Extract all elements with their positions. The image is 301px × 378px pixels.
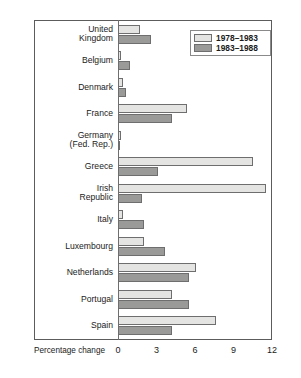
bar-group	[118, 180, 272, 207]
legend-swatch-icon-series-2	[194, 44, 212, 52]
bar-group	[118, 127, 272, 154]
bar-group	[118, 233, 272, 260]
bar-group	[118, 286, 272, 313]
axis-title: Percentage change	[34, 346, 105, 356]
bar-series-2	[118, 273, 189, 282]
category-label: Spain	[33, 321, 113, 330]
bar-series-2	[118, 300, 189, 309]
bar-series-1	[118, 157, 253, 166]
bar-series-1	[118, 78, 123, 87]
bar-series-1	[118, 25, 140, 34]
category-label: Italy	[33, 215, 113, 224]
bar-series-2	[118, 88, 126, 97]
category-label: Portugal	[33, 295, 113, 304]
category-label: United Kingdom	[33, 25, 113, 44]
legend-item-series-1: 1978–1983	[194, 33, 267, 43]
bar-series-1	[118, 51, 121, 60]
category-label: Irish Republic	[33, 184, 113, 203]
bar-group	[118, 313, 272, 340]
bars-area	[118, 21, 272, 339]
bar-chart: United KingdomBelgiumDenmarkFranceGerman…	[0, 0, 301, 378]
category-label: Luxembourg	[33, 242, 113, 251]
bar-group	[118, 207, 272, 234]
bar-group	[118, 154, 272, 181]
bar-series-2	[118, 194, 142, 203]
tick-label: 6	[185, 345, 205, 356]
bar-series-1	[118, 104, 187, 113]
bar-series-1	[118, 237, 144, 246]
bar-series-2	[118, 35, 151, 44]
legend: 1978–1983 1983–1988	[190, 30, 271, 56]
bar-series-2	[118, 220, 144, 229]
category-label: Germany (Fed. Rep.)	[33, 131, 113, 150]
tick-label: 12	[262, 345, 282, 356]
category-label: Netherlands	[33, 268, 113, 277]
category-label: Greece	[33, 162, 113, 171]
bar-group	[118, 74, 272, 101]
bar-series-2	[118, 114, 172, 123]
category-label: France	[33, 109, 113, 118]
bar-series-2	[118, 247, 165, 256]
bar-series-1	[118, 263, 196, 272]
bar-series-1	[118, 316, 216, 325]
legend-swatch-icon-series-1	[194, 34, 212, 42]
bar-series-1	[118, 131, 121, 140]
legend-item-series-2: 1983–1988	[194, 43, 267, 53]
category-label: Belgium	[33, 56, 113, 65]
legend-label-series-1: 1978–1983	[216, 34, 258, 43]
tick-label: 0	[108, 345, 128, 356]
bar-series-2	[118, 61, 130, 70]
category-label: Denmark	[33, 83, 113, 92]
bar-group	[118, 101, 272, 128]
tick-label: 3	[147, 345, 167, 356]
bar-group	[118, 260, 272, 287]
tick-label: 9	[224, 345, 244, 356]
bar-series-2	[118, 167, 158, 176]
bar-series-2	[118, 141, 120, 150]
bar-series-2	[118, 326, 172, 335]
bar-series-1	[118, 210, 123, 219]
bar-series-1	[118, 184, 266, 193]
bar-series-1	[118, 290, 172, 299]
legend-label-series-2: 1983–1988	[216, 44, 258, 53]
category-axis-labels: United KingdomBelgiumDenmarkFranceGerman…	[34, 20, 118, 340]
